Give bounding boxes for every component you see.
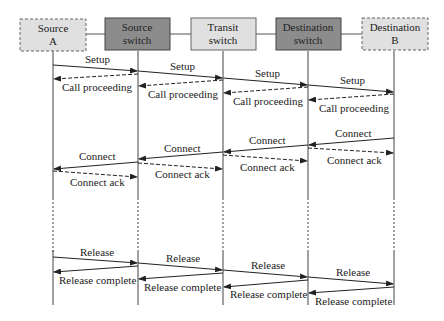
msg-connect-1: Connect xyxy=(335,127,372,139)
msg-release-complete-3: Release complete xyxy=(230,288,307,300)
entity-source-a: Source A xyxy=(20,19,86,51)
msg-release-complete-1: Release complete xyxy=(59,274,136,286)
entity-label-line1: Source xyxy=(122,21,153,33)
entity-label-line2: B xyxy=(391,34,398,46)
entity-destination-switch: Destination switch xyxy=(276,18,341,50)
msg-release-complete-2: Release complete xyxy=(144,281,221,293)
entity-label-line1: Transit xyxy=(208,21,239,33)
entity-label-line2: switch xyxy=(294,34,323,46)
entity-transit-switch: Transit switch xyxy=(191,18,256,50)
msg-release-2: Release xyxy=(166,252,200,264)
msg-call-proceeding-1: Call proceeding xyxy=(62,81,132,93)
msg-release-4: Release xyxy=(336,266,370,278)
msg-release-3: Release xyxy=(251,259,285,271)
msg-connect-2: Connect xyxy=(249,134,286,146)
msg-call-proceeding-3: Call proceeding xyxy=(233,95,303,107)
entity-label-line1: Source xyxy=(38,22,69,34)
entity-label-line1: Destination xyxy=(283,21,334,33)
msg-connect-ack-2: Connect ack xyxy=(240,161,295,173)
msg-connect-3: Connect xyxy=(164,142,201,154)
msg-connect-4: Connect xyxy=(79,150,116,162)
entity-destination-b: Destination B xyxy=(362,18,428,50)
msg-connect-ack-1: Connect ack xyxy=(327,154,382,166)
msg-setup-1: Setup xyxy=(85,53,111,65)
entity-source-switch: Source switch xyxy=(105,18,170,50)
msg-connect-ack-3: Connect ack xyxy=(155,168,210,180)
msg-release-complete-4: Release complete xyxy=(315,295,392,307)
msg-release-1: Release xyxy=(80,246,114,258)
msg-setup-4: Setup xyxy=(340,74,366,86)
entity-label-line2: switch xyxy=(209,34,238,46)
msg-setup-3: Setup xyxy=(255,67,281,79)
entity-label-line2: A xyxy=(49,35,57,47)
msg-call-proceeding-4: Call proceeding xyxy=(319,102,389,114)
msg-connect-ack-4: Connect ack xyxy=(70,176,125,188)
msg-call-proceeding-2: Call proceeding xyxy=(148,88,218,100)
msg-setup-2: Setup xyxy=(170,60,196,72)
entity-label-line1: Destination xyxy=(370,21,421,33)
entity-label-line2: switch xyxy=(123,34,152,46)
